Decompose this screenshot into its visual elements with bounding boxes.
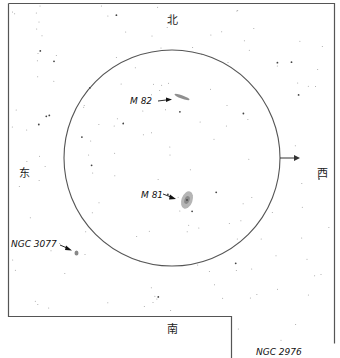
chart-frame — [9, 4, 335, 358]
star — [98, 124, 99, 125]
object-m81[interactable]: M 81 — [141, 190, 195, 211]
star — [322, 46, 323, 47]
star — [136, 236, 137, 237]
star — [38, 53, 39, 54]
star — [222, 298, 223, 299]
star — [226, 126, 227, 127]
ngc3077-label: NGC 3077 — [11, 239, 57, 249]
star — [247, 119, 248, 120]
star — [64, 273, 65, 274]
ngc2976-label: NGC 2976 — [256, 347, 302, 357]
star — [154, 296, 155, 297]
star — [321, 274, 322, 275]
m82-pointer-icon — [166, 98, 172, 103]
star — [192, 47, 193, 48]
star — [307, 259, 308, 260]
star — [308, 295, 309, 296]
star — [114, 153, 115, 154]
star — [301, 183, 302, 184]
star-chart: 北 南 东 西 M 82 M 81 NGC 3077 NGC 2976 — [0, 0, 340, 358]
star — [229, 223, 230, 224]
star — [157, 296, 159, 298]
star — [243, 113, 245, 115]
object-m82[interactable]: M 82 — [130, 93, 190, 106]
star — [190, 169, 191, 170]
star — [256, 294, 257, 295]
star — [114, 175, 115, 176]
star — [101, 6, 102, 7]
star — [248, 159, 249, 160]
star — [328, 227, 329, 228]
star — [250, 297, 251, 298]
star — [53, 60, 55, 62]
star — [37, 304, 38, 305]
star — [107, 15, 108, 16]
star — [188, 225, 189, 226]
star — [153, 84, 154, 85]
star — [214, 139, 215, 140]
star — [81, 136, 83, 138]
object-ngc3077[interactable]: NGC 3077 — [11, 239, 79, 256]
star — [56, 55, 57, 56]
star — [48, 115, 50, 117]
star — [143, 134, 144, 135]
star — [152, 36, 153, 37]
star — [308, 86, 309, 87]
star — [37, 76, 38, 77]
star — [151, 132, 152, 133]
star — [251, 268, 252, 269]
direction-north: 北 — [167, 14, 178, 27]
star — [92, 212, 93, 213]
object-ngc2976[interactable]: NGC 2976 — [256, 347, 302, 357]
star — [14, 13, 15, 14]
m81-pointer-icon — [169, 195, 176, 200]
star — [198, 228, 199, 229]
star — [37, 60, 38, 61]
star — [215, 191, 217, 193]
star — [26, 130, 27, 131]
star-field — [12, 6, 330, 341]
star — [39, 50, 41, 52]
star — [45, 115, 47, 117]
star — [291, 61, 293, 63]
star — [114, 126, 115, 127]
star — [281, 340, 282, 341]
star — [42, 35, 43, 36]
ngc3077-galaxy-icon — [75, 250, 79, 255]
star — [83, 107, 84, 108]
field-of-view-circle — [64, 50, 280, 266]
star — [277, 62, 279, 64]
star — [19, 186, 20, 187]
star — [276, 255, 277, 256]
star — [179, 211, 180, 212]
star — [210, 89, 211, 90]
star — [158, 179, 159, 180]
m82-galaxy-icon — [174, 93, 190, 101]
star — [167, 194, 169, 196]
star — [317, 69, 318, 70]
star — [36, 29, 37, 30]
star — [227, 105, 228, 106]
star — [116, 57, 117, 58]
star — [88, 154, 89, 155]
star — [277, 65, 278, 66]
star — [187, 231, 188, 232]
star — [90, 141, 91, 142]
star — [200, 121, 201, 122]
star — [161, 85, 162, 86]
star — [149, 231, 150, 232]
star — [243, 203, 244, 204]
star — [99, 202, 100, 203]
star — [295, 145, 296, 146]
star — [91, 164, 93, 166]
star — [116, 14, 118, 16]
direction-west: 西 — [317, 167, 328, 180]
star — [39, 180, 40, 181]
star — [39, 156, 40, 157]
star — [12, 12, 13, 13]
star — [197, 265, 198, 266]
star — [40, 6, 41, 7]
star — [153, 302, 154, 303]
star — [156, 299, 157, 300]
star — [301, 238, 302, 239]
